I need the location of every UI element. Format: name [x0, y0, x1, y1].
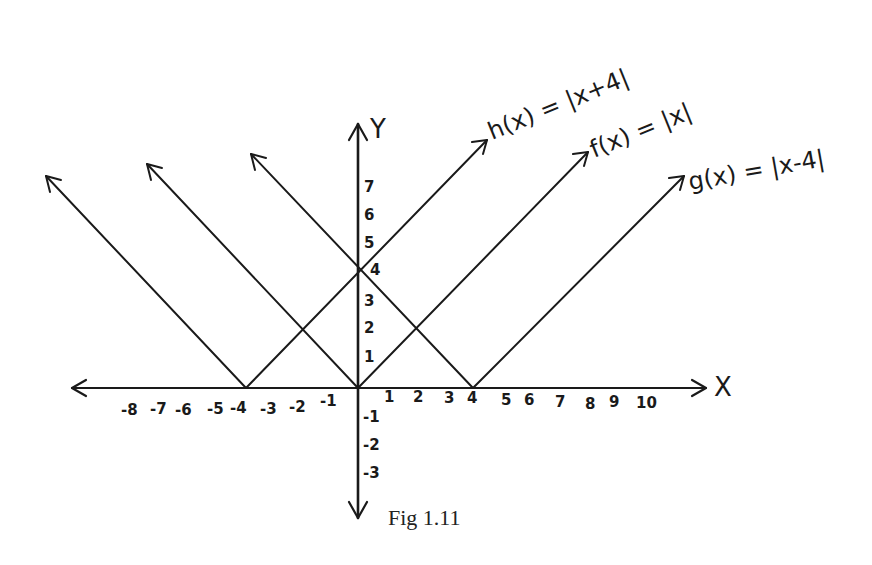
svg-text:4: 4 [467, 389, 477, 407]
svg-text:-7: -7 [150, 400, 167, 418]
svg-text:-1: -1 [320, 392, 337, 410]
svg-text:1: 1 [384, 388, 394, 406]
svg-text:-3: -3 [363, 464, 380, 482]
svg-text:-2: -2 [289, 398, 306, 416]
x-tick-labels: -8 -7 -6 -5 -4 -3 -2 -1 1 2 3 4 5 6 7 8 … [121, 388, 657, 419]
label-f: f(x) = |x| [586, 97, 696, 163]
svg-text:-5: -5 [207, 400, 224, 418]
absolute-value-graph: X Y -8 -7 -6 -5 -4 -3 -2 -1 1 2 3 4 5 6 … [0, 0, 872, 565]
y-tick-labels: 1 2 3 4 5 6 7 -1 -2 -3 [363, 178, 380, 482]
svg-text:4: 4 [370, 261, 380, 279]
figure-caption: Fig 1.11 [388, 505, 461, 531]
svg-text:2: 2 [364, 319, 374, 337]
svg-text:6: 6 [524, 391, 534, 409]
svg-text:1: 1 [364, 348, 374, 366]
svg-text:10: 10 [636, 394, 657, 412]
svg-text:-2: -2 [363, 436, 380, 454]
svg-text:7: 7 [555, 393, 565, 411]
graph-h [46, 140, 487, 388]
svg-text:-4: -4 [230, 399, 247, 417]
svg-text:8: 8 [585, 395, 595, 413]
x-axis-label: X [714, 372, 732, 402]
svg-text:3: 3 [364, 292, 374, 310]
y-axis: Y [349, 114, 386, 518]
svg-text:-8: -8 [121, 401, 138, 419]
svg-text:9: 9 [609, 393, 619, 411]
svg-text:-3: -3 [260, 400, 277, 418]
svg-text:2: 2 [413, 388, 423, 406]
graph-g [251, 154, 684, 388]
svg-text:-6: -6 [175, 401, 192, 419]
svg-text:6: 6 [364, 206, 374, 224]
svg-text:5: 5 [364, 234, 374, 252]
svg-text:3: 3 [444, 389, 454, 407]
svg-text:5: 5 [501, 391, 511, 409]
label-g: g(x) = |x-4| [686, 144, 827, 196]
svg-text:7: 7 [364, 178, 374, 196]
svg-text:-1: -1 [363, 408, 380, 426]
x-axis: X [72, 372, 732, 402]
y-axis-label: Y [369, 114, 386, 144]
